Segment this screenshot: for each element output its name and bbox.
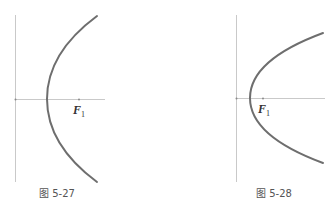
- focus-point: [78, 99, 80, 101]
- caption-fig-5-27: 图 5-27: [39, 189, 75, 199]
- focus-subscript: 1: [266, 109, 270, 118]
- focus-subscript: 1: [81, 110, 85, 119]
- figure-5-27: [15, 15, 106, 182]
- caption-fig-5-28: 图 5-28: [256, 189, 292, 199]
- focus-letter: F: [73, 103, 81, 117]
- origin-dot: [236, 98, 238, 100]
- focus-point: [262, 98, 264, 100]
- focus-letter: F: [258, 102, 266, 116]
- origin-dot: [15, 99, 17, 101]
- figures-canvas: [0, 0, 332, 210]
- focus-label-fig-5-28: F1: [258, 103, 270, 118]
- figure-5-28: [236, 15, 326, 182]
- focus-label-fig-5-27: F1: [73, 104, 85, 119]
